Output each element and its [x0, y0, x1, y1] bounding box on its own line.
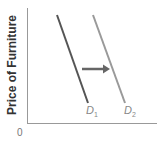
demand-curve-d2 — [93, 15, 125, 103]
y-axis-label: Price of Furniture — [3, 10, 21, 120]
origin-label: 0 — [17, 127, 23, 138]
demand-shift-chart: Price of Furniture 0 D1 D2 — [0, 0, 160, 142]
demand-curve-d1 — [57, 15, 88, 103]
d1-label: D1 — [86, 104, 98, 118]
shift-arrow-icon — [82, 65, 110, 74]
d2-label: D2 — [124, 104, 136, 118]
chart-canvas — [0, 0, 160, 142]
